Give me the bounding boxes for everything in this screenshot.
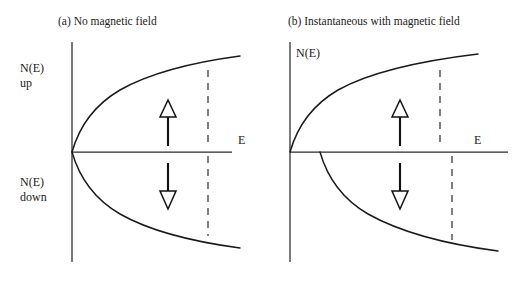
panel-b-spin-up-arrow (392, 100, 408, 146)
panel-b-spin-up-curve (290, 54, 478, 152)
panel-a-y-axis-label-down-line2: down (20, 190, 47, 204)
panel-a-y-axis-label-up-line1: N(E) (20, 61, 44, 75)
density-of-states-figure: (a) No magnetic field E N(E) up N(E) dow… (0, 0, 521, 292)
panel-b-spin-down-curve (320, 152, 498, 251)
panel-a-spin-up-arrow (160, 100, 176, 146)
panel-a-caption: (a) No magnetic field (58, 15, 157, 28)
panel-b-spin-down-arrow (392, 163, 408, 209)
panel-a-y-axis-label-up-line2: up (20, 76, 32, 90)
panel-b-y-axis-label: N(E) (296, 46, 320, 60)
panel-b-x-axis-label: E (474, 133, 481, 147)
panel-a: (a) No magnetic field E N(E) up N(E) dow… (20, 15, 245, 262)
panel-a-spin-down-curve (72, 152, 240, 248)
panel-a-spin-up-curve (72, 56, 240, 152)
panel-a-x-axis-label: E (238, 133, 245, 147)
panel-b-caption: (b) Instantaneous with magnetic field (288, 15, 460, 28)
panel-b: (b) Instantaneous with magnetic field E … (288, 15, 508, 262)
panel-a-spin-down-arrow (160, 163, 176, 209)
panel-a-y-axis-label-down-line1: N(E) (20, 175, 44, 189)
